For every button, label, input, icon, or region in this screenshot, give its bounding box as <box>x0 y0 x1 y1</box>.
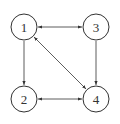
node-label-1: 1 <box>21 20 28 35</box>
node-3: 3 <box>83 14 109 40</box>
node-label-3: 3 <box>93 20 100 35</box>
node-4: 4 <box>83 86 109 112</box>
node-label-4: 4 <box>93 92 100 107</box>
node-1: 1 <box>11 14 37 40</box>
node-2: 2 <box>11 86 37 112</box>
graph-diagram: 1 2 3 4 <box>0 0 120 124</box>
node-label-2: 2 <box>21 92 28 107</box>
edge-1-4 <box>34 37 86 89</box>
